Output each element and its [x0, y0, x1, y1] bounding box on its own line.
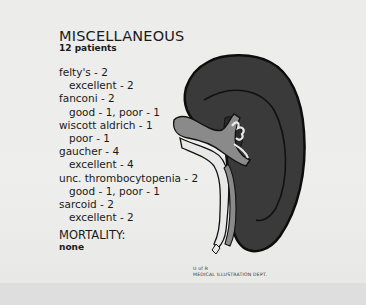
illustration-credit: U of R MEDICAL ILLUSTRATION DEPT.	[193, 266, 267, 278]
mortality-value: none	[59, 242, 84, 253]
slide: MISCELLANEOUS 12 patients felty's - 2 ex…	[0, 0, 366, 305]
splenic-artery	[180, 138, 229, 248]
credit-line-2: MEDICAL ILLUSTRATION DEPT.	[193, 272, 267, 278]
spleen-illustration	[170, 40, 350, 260]
slide-title: MISCELLANEOUS	[59, 28, 185, 44]
mortality-label: MORTALITY:	[59, 229, 125, 242]
patient-count: 12 patients	[59, 43, 117, 54]
slide-bottom-band	[0, 283, 366, 305]
